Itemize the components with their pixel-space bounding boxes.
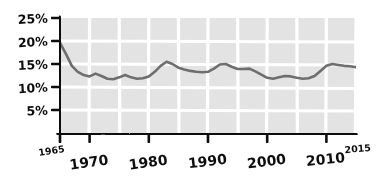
x-axis-label-1990: 1990 — [187, 151, 228, 172]
x-axis-label-1970: 1970 — [68, 151, 109, 172]
x-axis-label-1965: 1965 — [38, 143, 66, 158]
chart-canvas: 25% 20% 15% 10% 5% 1965 1970 1980 1990 2… — [0, 0, 380, 179]
x-axis-label-2015: 2015 — [344, 142, 371, 155]
y-axis-label-5: 5% — [26, 102, 48, 118]
x-axis-label-1980: 1980 — [128, 151, 169, 172]
x-axis-label-2010: 2010 — [305, 149, 346, 169]
y-axis-label-20: 20% — [17, 33, 48, 50]
y-axis-labels: 25% 20% 15% 10% 5% — [17, 10, 48, 118]
y-axis-label-10: 10% — [17, 79, 48, 96]
y-axis-label-25: 25% — [17, 10, 48, 27]
line-chart: 25% 20% 15% 10% 5% 1965 1970 1980 1990 2… — [0, 0, 380, 179]
y-axis-label-15: 15% — [17, 56, 48, 73]
y-axis — [60, 17, 61, 134]
x-axis-labels: 1965 1970 1980 1990 2000 2010 2015 — [38, 142, 372, 173]
x-axis-label-2000: 2000 — [246, 151, 287, 172]
